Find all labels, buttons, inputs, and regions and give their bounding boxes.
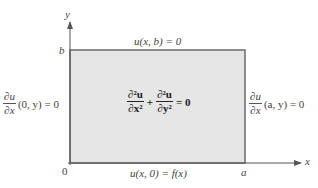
second-partial-y: ∂²u ∂y² xyxy=(156,89,173,114)
left-boundary-condition: ∂u ∂x (0, y) = 0 xyxy=(3,91,59,116)
fraction-numerator: ∂u xyxy=(249,91,262,104)
y-axis-label: y xyxy=(65,9,70,20)
fraction-denominator: ∂x xyxy=(250,104,260,116)
origin-label: 0 xyxy=(62,166,68,177)
fraction-numerator: ∂²u xyxy=(156,89,173,102)
left-bc-args: (0, y) = 0 xyxy=(18,98,59,110)
y-tick-label-b: b xyxy=(59,45,65,56)
plus-sign: + xyxy=(147,96,153,108)
equation-rhs: = 0 xyxy=(176,96,191,108)
top-boundary-condition: u(x, b) = 0 xyxy=(134,36,181,47)
fraction-numerator: ∂²u xyxy=(127,89,144,102)
x-axis-label: x xyxy=(305,156,310,167)
fraction-denominator: ∂x² xyxy=(128,102,142,114)
second-partial-x: ∂²u ∂x² xyxy=(127,89,144,114)
partial-derivative-fraction: ∂u ∂x xyxy=(3,91,16,116)
right-boundary-condition: ∂u ∂x (a, y) = 0 xyxy=(249,91,304,116)
laplace-equation: ∂²u ∂x² + ∂²u ∂y² = 0 xyxy=(127,89,191,114)
fraction-numerator: ∂u xyxy=(3,91,16,104)
fraction-denominator: ∂y² xyxy=(157,102,171,114)
fraction-denominator: ∂x xyxy=(4,104,14,116)
partial-derivative-fraction: ∂u ∂x xyxy=(249,91,262,116)
x-tick-label-a: a xyxy=(241,167,247,178)
right-bc-args: (a, y) = 0 xyxy=(264,98,304,110)
bottom-boundary-condition: u(x, 0) = f(x) xyxy=(130,168,187,179)
